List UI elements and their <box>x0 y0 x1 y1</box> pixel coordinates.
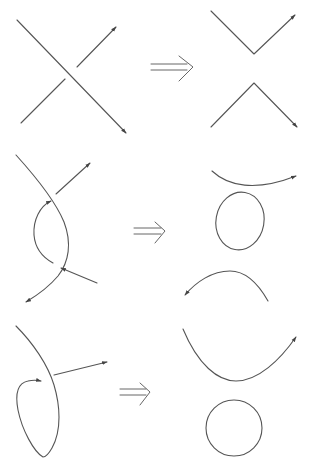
circle <box>206 400 262 456</box>
strand-b-loop <box>34 201 53 263</box>
row-3-kink <box>16 326 107 457</box>
implies-arrow-3 <box>120 383 150 405</box>
implies-arrow-2 <box>134 222 165 243</box>
outgoing-segment <box>54 362 107 375</box>
over-strand <box>17 20 126 133</box>
row-1-crossing <box>17 20 126 133</box>
main-strand <box>16 326 59 457</box>
upper-arc <box>212 171 296 185</box>
u-arc <box>183 329 296 381</box>
strand-a <box>16 155 69 302</box>
knot-smoothing-diagram <box>0 0 311 469</box>
strand-b-head <box>56 163 90 194</box>
implies-arrow-1 <box>151 56 193 81</box>
row-3-smoothed <box>183 329 296 456</box>
row-2-smoothed <box>185 171 296 301</box>
row-1-smoothed <box>211 11 297 127</box>
closed-loop <box>211 188 268 253</box>
under-strand-lower <box>21 79 65 123</box>
lower-arc <box>185 271 268 301</box>
under-strand-upper <box>77 27 116 67</box>
v-arc <box>211 11 295 54</box>
row-2-bigon <box>16 155 97 302</box>
lambda-arc <box>211 83 297 127</box>
strand-b-tail <box>61 268 97 283</box>
